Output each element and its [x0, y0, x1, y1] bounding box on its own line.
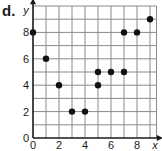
x-tick-label: 6	[108, 139, 114, 151]
data-point	[121, 29, 127, 35]
grid-lines	[33, 6, 157, 138]
data-point	[43, 56, 49, 62]
data-point	[108, 69, 114, 75]
y-tick-label: 6	[23, 53, 29, 65]
data-point	[134, 29, 140, 35]
x-tick-label: 8	[134, 139, 140, 151]
y-tick-label: 0	[23, 132, 29, 144]
tick-labels: 0246802468xy	[22, 4, 158, 151]
y-axis-label: y	[22, 4, 30, 16]
scatter-plot: 0246802468xy	[0, 0, 162, 151]
y-axis-arrow-icon	[30, 0, 36, 4]
data-point	[95, 69, 101, 75]
x-axis-label: x	[151, 139, 158, 151]
x-tick-label: 2	[56, 139, 62, 151]
x-tick-label: 4	[82, 139, 88, 151]
data-point	[121, 69, 127, 75]
data-points	[30, 16, 153, 115]
y-tick-label: 2	[23, 106, 29, 118]
data-point	[95, 82, 101, 88]
data-point	[30, 29, 36, 35]
x-tick-label: 0	[30, 139, 36, 151]
y-tick-label: 4	[23, 79, 29, 91]
y-tick-label: 8	[23, 26, 29, 38]
data-point	[69, 108, 75, 114]
data-point	[82, 108, 88, 114]
data-point	[56, 82, 62, 88]
data-point	[147, 16, 153, 22]
